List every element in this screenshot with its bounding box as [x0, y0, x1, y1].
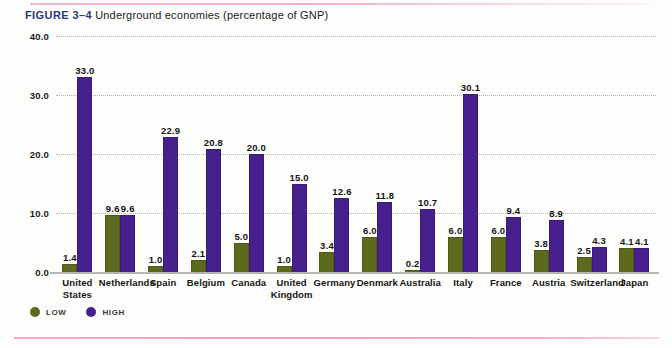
- x-axis-category-label: Germany: [313, 277, 356, 289]
- bar-high[interactable]: 20.8: [206, 149, 221, 272]
- bar-low[interactable]: 6.0: [448, 237, 463, 272]
- y-axis-tick-label: 30.0: [30, 90, 49, 101]
- circle-marker-low-icon: [30, 307, 40, 317]
- x-axis-category-label: Denmark: [356, 277, 399, 289]
- bar-high[interactable]: 15.0: [292, 184, 307, 273]
- bar-group: 9.69.6: [99, 36, 142, 272]
- x-axis-category-label: Australia: [399, 277, 442, 289]
- x-axis-category-label: Belgium: [185, 277, 228, 289]
- bar-group: 5.020.0: [227, 36, 270, 272]
- x-axis-category-label: Japan: [613, 277, 656, 289]
- bar-group: 3.412.6: [313, 36, 356, 272]
- bar-low[interactable]: 2.5: [577, 257, 592, 272]
- circle-marker-high-icon: [86, 307, 96, 317]
- bar-group: 3.88.9: [527, 36, 570, 272]
- bar-low[interactable]: 1.4: [62, 264, 77, 272]
- bar-value-label: 1.4: [63, 252, 77, 263]
- bar-high[interactable]: 33.0: [77, 77, 92, 272]
- bar-high[interactable]: 10.7: [420, 209, 435, 272]
- x-axis-category-label: Canada: [227, 277, 270, 289]
- x-axis-category-label: UnitedKingdom: [270, 277, 313, 300]
- bar-value-label: 20.8: [204, 137, 223, 148]
- bar-high[interactable]: 9.6: [120, 215, 135, 272]
- bar-group: 2.120.8: [185, 36, 228, 272]
- y-axis-tick-label: 10.0: [30, 208, 49, 219]
- bar-value-label: 2.5: [577, 245, 591, 256]
- bar-value-label: 6.0: [449, 225, 463, 236]
- bar-value-label: 1.0: [149, 254, 163, 265]
- bar-value-label: 15.0: [289, 172, 308, 183]
- bar-group: 2.54.3: [570, 36, 613, 272]
- bar-value-label: 5.0: [234, 231, 248, 242]
- bar-high[interactable]: 4.3: [592, 247, 607, 272]
- bar-value-label: 1.0: [277, 254, 291, 265]
- x-axis-labels: UnitedStatesNetherlandsSpainBelgiumCanad…: [56, 277, 656, 300]
- bar-value-label: 4.1: [620, 236, 634, 247]
- bar-value-label: 2.1: [192, 248, 206, 259]
- chart-legend: LOWHIGH: [30, 307, 125, 317]
- legend-label: LOW: [46, 308, 66, 317]
- x-axis-category-label: UnitedStates: [56, 277, 99, 300]
- bar-low[interactable]: 6.0: [491, 237, 506, 272]
- bar-value-label: 4.3: [592, 235, 606, 246]
- bar-high[interactable]: 11.8: [377, 202, 392, 272]
- bar-low[interactable]: 4.1: [619, 248, 634, 272]
- bar-low[interactable]: 3.4: [319, 252, 334, 272]
- bar-value-label: 3.8: [534, 238, 548, 249]
- bar-high[interactable]: 20.0: [249, 154, 264, 272]
- x-axis-line: [50, 272, 659, 274]
- bar-value-label: 33.0: [75, 65, 94, 76]
- bar-high[interactable]: 12.6: [334, 198, 349, 272]
- legend-item[interactable]: HIGH: [86, 307, 124, 317]
- bar-low[interactable]: 5.0: [234, 243, 249, 273]
- bar-high[interactable]: 30.1: [463, 94, 478, 272]
- bar-value-label: 9.6: [121, 203, 135, 214]
- legend-item[interactable]: LOW: [30, 307, 66, 317]
- x-axis-category-label: Netherlands: [99, 277, 142, 289]
- x-axis-category-label: Austria: [527, 277, 570, 289]
- bar-high[interactable]: 4.1: [634, 248, 649, 272]
- bar-value-label: 9.6: [106, 203, 120, 214]
- bar-value-label: 22.9: [161, 125, 180, 136]
- bar-group: 0.210.7: [399, 36, 442, 272]
- x-axis-category-label: France: [484, 277, 527, 289]
- bar-value-label: 30.1: [461, 82, 480, 93]
- bar-value-label: 3.4: [320, 240, 334, 251]
- figure-number-label: FIGURE 3–4: [25, 9, 92, 21]
- bar-group: 6.011.8: [356, 36, 399, 272]
- bar-group: 1.022.9: [142, 36, 185, 272]
- bar-value-label: 10.7: [418, 197, 437, 208]
- y-axis-tick-label: 20.0: [30, 149, 49, 160]
- x-axis-category-label: Switzerland: [570, 277, 613, 289]
- bar-low[interactable]: 9.6: [105, 215, 120, 272]
- bottom-divider-rule: [14, 337, 660, 339]
- bar-value-label: 6.0: [363, 225, 377, 236]
- top-divider-rule: [30, 3, 650, 5]
- bar-value-label: 12.6: [332, 186, 351, 197]
- bar-high[interactable]: 8.9: [549, 220, 564, 273]
- figure-title-text: Underground economies (percentage of GNP…: [95, 9, 328, 21]
- bar-high[interactable]: 22.9: [163, 137, 178, 272]
- y-axis-tick-label: 0.0: [35, 267, 49, 278]
- bar-group: 1.015.0: [270, 36, 313, 272]
- bar-group: 6.030.1: [442, 36, 485, 272]
- bar-low[interactable]: 3.8: [534, 250, 549, 272]
- bar-group: 1.433.0: [56, 36, 99, 272]
- bar-value-label: 0.2: [406, 258, 420, 269]
- figure-caption: FIGURE 3–4 Underground economies (percen…: [25, 9, 328, 21]
- bar-high[interactable]: 9.4: [506, 217, 521, 272]
- bar-low[interactable]: 6.0: [362, 237, 377, 272]
- bar-value-label: 20.0: [247, 142, 266, 153]
- bar-low[interactable]: 2.1: [191, 260, 206, 272]
- bar-groups: 1.433.09.69.61.022.92.120.85.020.01.015.…: [56, 36, 656, 272]
- figure-container: FIGURE 3–4 Underground economies (percen…: [0, 0, 672, 348]
- bar-value-label: 11.8: [375, 190, 394, 201]
- plot-area: 0.010.020.030.040.0 1.433.09.69.61.022.9…: [56, 36, 656, 272]
- bar-value-label: 8.9: [549, 208, 563, 219]
- bar-group: 6.09.4: [484, 36, 527, 272]
- bar-value-label: 9.4: [506, 205, 520, 216]
- x-axis-category-label: Spain: [142, 277, 185, 289]
- bar-value-label: 6.0: [491, 225, 505, 236]
- bar-group: 4.14.1: [613, 36, 656, 272]
- y-axis-tick-label: 40.0: [30, 31, 49, 42]
